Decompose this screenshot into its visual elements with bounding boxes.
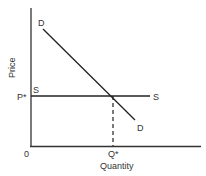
x-axis-title: Quantity <box>100 161 134 171</box>
origin-label: 0 <box>24 149 29 159</box>
y-axis-title: Price <box>7 57 17 78</box>
supply-label-right: S <box>153 92 159 102</box>
qstar-label: Q* <box>108 149 119 159</box>
demand-label-top: D <box>38 18 45 28</box>
supply-demand-chart: D D S S P* Q* 0 Quantity Price <box>0 0 206 176</box>
supply-label-left: S <box>33 85 39 95</box>
demand-label-bottom: D <box>137 123 144 133</box>
demand-curve <box>43 29 135 120</box>
pstar-label: P* <box>17 92 27 102</box>
